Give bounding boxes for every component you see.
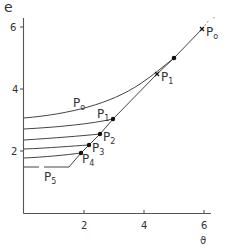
cross-marker-p0-prime <box>200 27 204 31</box>
label-p5: P5 <box>44 170 56 186</box>
label-p0: Po <box>73 96 85 112</box>
y-axis-label: e <box>4 0 13 15</box>
label-p1-curve: P1 <box>97 107 109 123</box>
xtick-label-6: 6 <box>201 220 207 231</box>
cross-marker-p1 <box>155 72 159 76</box>
ytick-label-4: 4 <box>12 84 18 95</box>
point-dot-p3 <box>87 143 91 147</box>
label-p1-cross: P1 <box>161 70 173 86</box>
point-dot-p1 <box>111 117 115 121</box>
curve-p2 <box>24 134 100 140</box>
point-dot-p0-end <box>172 56 177 61</box>
label-p0-prime: Po <box>206 25 218 41</box>
xtick-label-2: 2 <box>81 220 87 231</box>
chart: 6 4 2 2 4 6 e ϑ Po P1 P2 P3 P4 P5 P1 Po … <box>0 0 229 248</box>
xtick-label-4: 4 <box>141 220 147 231</box>
label-p2: P2 <box>103 130 115 146</box>
curve-p4 <box>24 153 81 158</box>
ytick-label-6: 6 <box>10 22 16 33</box>
ytick-label-2: 2 <box>11 146 17 157</box>
label-p0-prime-mark: ′ <box>213 17 215 26</box>
curve-p3 <box>24 145 89 149</box>
x-axis-label: ϑ <box>200 235 206 246</box>
point-dot-p2 <box>98 132 102 136</box>
